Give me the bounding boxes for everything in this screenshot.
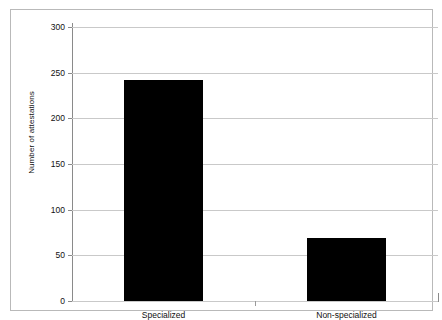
bar [124,80,203,301]
y-axis-tickmark [68,27,72,28]
y-axis-tickmark [68,73,72,74]
y-axis-tickmark [68,301,72,302]
y-axis-tickmark [68,210,72,211]
bar [307,238,386,301]
plot-right-edge [438,293,439,302]
chart-frame: Number of attestations 05010015020025030… [10,9,433,311]
x-axis-category-label: Specialized [142,310,185,320]
y-axis-tick-label: 250 [51,68,65,78]
y-axis-tick-label: 100 [51,205,65,215]
y-axis-tickmark [68,164,72,165]
y-axis-tick-label: 200 [51,113,65,123]
gridline [72,27,438,28]
x-axis-category-label: Non-specialized [316,310,376,320]
y-axis-tick-label: 150 [51,159,65,169]
y-axis-title: Number of attestations [27,48,36,218]
y-axis-tick-label: 0 [60,296,65,306]
bar-chart-figure: Number of attestations 05010015020025030… [0,0,442,320]
y-axis-tick-label: 50 [56,250,65,260]
y-axis-tick-label: 300 [51,22,65,32]
y-axis-tickmark [68,255,72,256]
plot-area: 050100150200250300 SpecializedNon-specia… [72,27,438,301]
x-axis-tickmark [255,301,256,306]
y-axis-tickmark [68,118,72,119]
gridline [72,73,438,74]
